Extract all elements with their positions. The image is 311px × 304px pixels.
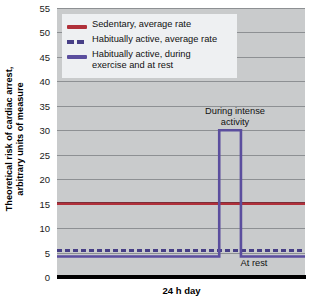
y-tick-label: 55 [39,3,50,14]
annotation-rest-text: At rest [241,258,268,268]
legend-label-active-average: Habitually active, average rate [92,34,217,44]
y-tick-label: 5 [45,247,50,258]
legend-label-active-exercise-line2: exercise and at rest [92,60,173,70]
y-tick-label: 0 [45,272,50,283]
x-axis-baseline [57,275,306,279]
y-tick-label: 10 [39,223,50,234]
y-tick-label: 15 [39,198,50,209]
x-axis-title: 24 h day [57,285,306,296]
legend-label-active-exercise-line1: Habitually active, during [92,49,191,59]
annotation-intense-line2: activity [221,117,249,127]
y-tick-label: 50 [39,27,50,38]
legend-swatch-solid-purple-icon [67,52,87,62]
y-tick-label: 25 [39,149,50,160]
annotation-during-intense-activity: During intense activity [192,106,278,127]
y-tick-label: 45 [39,51,50,62]
legend-item-sedentary: Sedentary, average rate [67,19,232,32]
annotation-at-rest: At rest [226,258,282,269]
y-axis-title-line1: Theoretical risk of cardiac arrest, [4,66,14,211]
y-axis-ticks: 0510152025303540455055 [28,0,52,278]
chart-legend: Sedentary, average rate Habitually activ… [62,14,237,78]
legend-swatch-solid-red-icon [67,22,87,32]
legend-swatch-dashed-purple-icon [67,37,87,47]
y-axis-title-line2: arbitrary units of measure [15,66,26,211]
legend-label-sedentary: Sedentary, average rate [92,19,191,29]
y-tick-label: 30 [39,125,50,136]
y-axis-title: Theoretical risk of cardiac arrest, arbi… [0,0,30,277]
y-tick-label: 40 [39,76,50,87]
y-tick-label: 35 [39,100,50,111]
legend-item-active-exercise: Habitually active, during exercise and a… [67,49,232,71]
chart-figure: Theoretical risk of cardiac arrest, arbi… [0,0,311,304]
legend-item-active-average: Habitually active, average rate [67,34,232,47]
y-tick-label: 20 [39,174,50,185]
annotation-intense-line1: During intense [205,106,265,116]
